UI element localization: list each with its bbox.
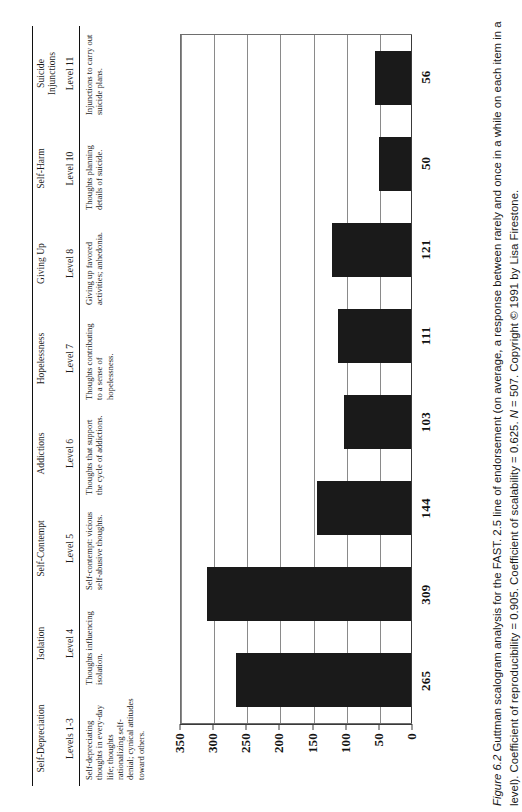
bar-slot <box>181 121 412 207</box>
bar-value-labels: 2653091441031111215056 <box>418 34 434 724</box>
column-description: Thoughts that support the cycle of addic… <box>79 406 145 501</box>
bar-slot <box>181 207 412 293</box>
bar[interactable] <box>379 137 412 190</box>
column-description: Thoughts planning details of suicide. <box>79 121 145 216</box>
column-header-name: Isolation <box>33 596 61 691</box>
column-description: Self-depreciating thoughts in every-day … <box>79 691 145 786</box>
bar-chart: 350300250200150100500 265309144103111121… <box>172 26 472 786</box>
levels-table: Self-Depreciation Isolation Self-Contemp… <box>32 26 146 786</box>
bar-value-label: 50 <box>418 120 434 206</box>
column-header-name: Self-Contempt <box>33 501 61 596</box>
bar-value-label: 265 <box>418 638 434 724</box>
bar-value-label: 111 <box>418 293 434 379</box>
y-tick-mark <box>180 724 181 730</box>
bar[interactable] <box>375 51 412 104</box>
y-tick-mark <box>412 724 413 730</box>
y-tick-label: 150 <box>305 724 321 786</box>
bar[interactable] <box>332 223 412 276</box>
bar-value-label: 309 <box>418 552 434 638</box>
bar-value-label: 103 <box>418 379 434 465</box>
caption-n-value: = 507. Copyright © 1991 by Lisa Fireston… <box>508 190 520 410</box>
column-level: Levels 1-3 <box>61 691 80 786</box>
y-axis: 350300250200150100500 <box>180 724 412 786</box>
bar[interactable] <box>317 481 412 534</box>
column-header-name: Hopelessness <box>33 311 61 406</box>
column-level: Level 10 <box>61 121 80 216</box>
bar-slot <box>181 465 412 551</box>
column-header-name: Self-Depreciation <box>33 691 61 786</box>
column-description: Giving up favored activities; anhedonia. <box>79 216 145 311</box>
column-level: Level 11 <box>61 26 80 121</box>
column-description: Injunctions to carry out suicide plans. <box>79 26 145 121</box>
bar-value-label: 144 <box>418 465 434 551</box>
bar-slot <box>181 637 412 723</box>
column-level: Level 6 <box>61 406 80 501</box>
y-tick-label: 50 <box>371 724 387 786</box>
y-tick-mark <box>312 724 313 730</box>
bar-value-label: 56 <box>418 34 434 120</box>
bar-slot <box>181 379 412 465</box>
y-tick-label: 0 <box>404 724 420 786</box>
y-tick-mark <box>279 724 280 730</box>
caption-label: Figure 6.2 <box>491 755 503 806</box>
column-level: Level 8 <box>61 216 80 311</box>
column-header-name: Self-Harm <box>33 121 61 216</box>
column-level: Level 7 <box>61 311 80 406</box>
table-description-row: Self-depreciating thoughts in every-day … <box>79 26 145 786</box>
figure-caption: Figure 6.2 Guttman scalogram analysis fo… <box>455 0 495 812</box>
column-description: Thoughts contributing to a sense of hope… <box>79 311 145 406</box>
bar-slot <box>181 35 412 121</box>
y-tick-mark <box>345 724 346 730</box>
bar-value-label: 121 <box>418 207 434 293</box>
column-level: Level 5 <box>61 501 80 596</box>
column-description: Thoughts influencing isolation. <box>79 596 145 691</box>
column-header-name: Addictions <box>33 406 61 501</box>
y-tick-label: 250 <box>238 724 254 786</box>
y-tick-label: 300 <box>205 724 221 786</box>
bar[interactable] <box>236 653 412 706</box>
table-header-row: Self-Depreciation Isolation Self-Contemp… <box>33 26 61 786</box>
caption-n-label: N <box>508 410 520 418</box>
bar[interactable] <box>344 395 412 448</box>
bar-series <box>181 35 412 723</box>
bar-slot <box>181 551 412 637</box>
bar[interactable] <box>207 567 412 620</box>
figure-stage: Self-Depreciation Isolation Self-Contemp… <box>32 26 472 786</box>
bar[interactable] <box>338 309 412 362</box>
table-level-row: Levels 1-3 Level 4 Level 5 Level 6 Level… <box>61 26 80 786</box>
y-tick-mark <box>213 724 214 730</box>
column-header-name: Suicide Injunctions <box>33 26 61 121</box>
y-tick-mark <box>246 724 247 730</box>
plot-area <box>180 34 412 724</box>
y-tick-label: 200 <box>271 724 287 786</box>
y-tick-mark <box>378 724 379 730</box>
bar-slot <box>181 293 412 379</box>
y-tick-label: 350 <box>172 724 188 786</box>
column-level: Level 4 <box>61 596 80 691</box>
y-tick-label: 100 <box>338 724 354 786</box>
column-description: Self-contempt: vicious self-abusive thou… <box>79 501 145 596</box>
column-header-name: Giving Up <box>33 216 61 311</box>
baseline <box>411 35 412 723</box>
